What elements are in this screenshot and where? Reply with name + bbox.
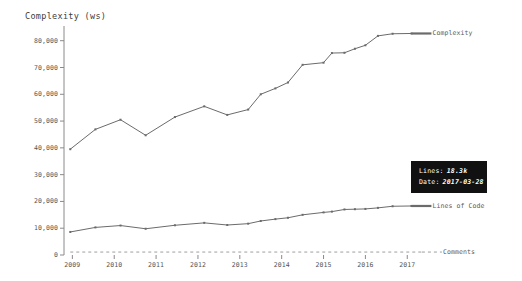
series-point: [323, 62, 325, 64]
series-point: [69, 231, 71, 233]
y-tick-label: 40,000: [12, 144, 58, 152]
series-point: [94, 226, 96, 228]
series-point: [247, 223, 249, 225]
series-point: [203, 105, 205, 107]
x-tick-label: 2011: [136, 261, 176, 269]
series-point: [260, 220, 262, 222]
tooltip-date-value: 2017-03-28: [440, 178, 484, 186]
series-point: [364, 44, 366, 46]
tooltip-date-key: Date:: [419, 178, 440, 186]
y-tick-label: 0: [12, 251, 58, 259]
y-tick-label: 10,000: [12, 224, 58, 232]
series-point: [354, 208, 356, 210]
tooltip-lines-key: Lines:: [419, 167, 444, 175]
x-tick-label: 2012: [178, 261, 218, 269]
series-line-complexity: [70, 33, 411, 149]
tooltip-row-lines: Lines:18.3k: [419, 166, 480, 177]
x-tick-label: 2015: [304, 261, 344, 269]
chart-tooltip: Lines:18.3k Date:2017-03-28: [411, 161, 487, 193]
line-chart: Complexity (ws) 010,00020,00030,00040,00…: [0, 0, 522, 281]
series-point: [260, 93, 262, 95]
x-tick-label: 2009: [52, 261, 92, 269]
x-tick-label: 2013: [220, 261, 260, 269]
x-tick-label: 2010: [94, 261, 134, 269]
series-point: [287, 82, 289, 84]
y-tick-label: 60,000: [12, 90, 58, 98]
series-point: [287, 217, 289, 219]
y-tick-label: 50,000: [12, 117, 58, 125]
series-point: [331, 211, 333, 213]
series-point: [120, 119, 122, 121]
y-tick-label: 80,000: [12, 37, 58, 45]
series-point: [226, 224, 228, 226]
series-point: [203, 222, 205, 224]
series-point: [364, 208, 366, 210]
x-tick-label: 2017: [387, 261, 427, 269]
x-tick-label: 2016: [345, 261, 385, 269]
series-point: [120, 225, 122, 227]
series-point: [69, 148, 71, 150]
series-point: [226, 114, 228, 116]
series-point: [145, 134, 147, 136]
legend-label-complexity: Complexity: [432, 29, 472, 37]
series-point: [323, 211, 325, 213]
plot-area: [0, 0, 522, 281]
series-point: [247, 109, 249, 111]
series-point: [392, 205, 394, 207]
series-point: [174, 224, 176, 226]
series-point: [377, 35, 379, 37]
y-tick-label: 30,000: [12, 171, 58, 179]
series-point: [392, 33, 394, 35]
series-point: [274, 218, 276, 220]
series-point: [174, 116, 176, 118]
legend-label-comments: Comments: [443, 248, 475, 256]
y-tick-label: 20,000: [12, 197, 58, 205]
series-point: [354, 48, 356, 50]
x-tick-label: 2014: [262, 261, 302, 269]
tooltip-row-date: Date:2017-03-28: [419, 177, 480, 188]
series-point: [331, 52, 333, 54]
y-tick-label: 70,000: [12, 64, 58, 72]
tooltip-lines-value: 18.3k: [444, 167, 468, 175]
series-point: [377, 207, 379, 209]
series-point: [302, 64, 304, 66]
series-point: [94, 128, 96, 130]
series-line-lines-of-code: [70, 206, 411, 232]
series-point: [343, 52, 345, 54]
legend-label-lines-of-code: Lines of Code: [432, 202, 484, 210]
series-point: [302, 214, 304, 216]
series-point: [274, 87, 276, 89]
series-point: [145, 228, 147, 230]
series-point: [343, 208, 345, 210]
